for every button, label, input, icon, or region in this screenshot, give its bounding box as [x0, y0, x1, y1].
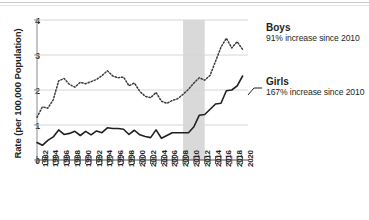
series-line-boys	[37, 38, 243, 117]
x-tick-label-1996: 1996	[116, 150, 125, 167]
annotation-boys-title: Boys	[266, 22, 360, 33]
x-tick-label-2002: 2002	[149, 150, 158, 167]
annotation-boys-subtitle: 91% increase since 2010	[266, 33, 360, 44]
x-tick-label-2010: 2010	[192, 150, 201, 167]
x-tick-label-1994: 1994	[105, 150, 114, 167]
chart-container: Rate (per 100,000 Population) 4 3 2 1 0 …	[0, 0, 369, 220]
x-tick-label-1998: 1998	[127, 150, 136, 167]
x-tick-label-2000: 2000	[138, 150, 147, 167]
x-tick-label-2020: 2020	[246, 150, 255, 167]
annotation-girls-title: Girls	[266, 76, 364, 87]
gridline-layer	[37, 20, 248, 125]
series-line-girls	[37, 76, 243, 145]
x-tick-label-1990: 1990	[84, 150, 93, 167]
annotation-girls: Girls 167% increase since 2010	[266, 76, 364, 98]
annotation-leader-girls	[248, 88, 262, 95]
x-tick-label-2014: 2014	[214, 150, 223, 167]
x-tick-label-2006: 2006	[170, 150, 179, 167]
x-tick-label-1992: 1992	[95, 150, 104, 167]
series-layer	[37, 38, 243, 145]
x-tick-label-2012: 2012	[203, 150, 212, 167]
x-tick-label-1986: 1986	[62, 150, 71, 167]
x-tick-label-2008: 2008	[181, 150, 190, 167]
axis-layer	[34, 18, 248, 164]
x-tick-label-2018: 2018	[235, 150, 244, 167]
x-tick-label-2004: 2004	[160, 150, 169, 167]
x-tick-label-1988: 1988	[73, 150, 82, 167]
annotation-girls-subtitle: 167% increase since 2010	[266, 87, 364, 98]
x-tick-label-1984: 1984	[51, 150, 60, 167]
x-tick-label-2016: 2016	[224, 150, 233, 167]
x-tick-label-1982: 1982	[41, 150, 50, 167]
annotation-boys: Boys 91% increase since 2010	[266, 22, 360, 44]
annotation-leader-layer	[248, 88, 262, 95]
